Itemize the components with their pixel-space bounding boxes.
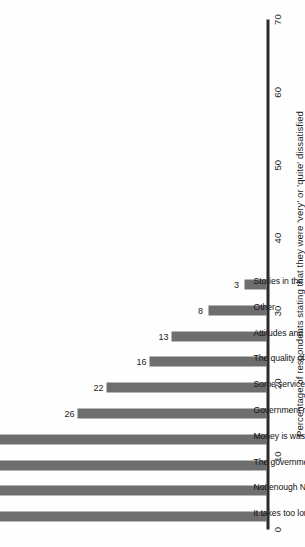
bar-group: 65It takes too long to get a GP or hospi…: [8, 503, 266, 529]
axis-tick-10: 10: [271, 451, 282, 462]
bar-value-label: 16: [136, 356, 146, 366]
bar-chart-plot: 65It takes too long to get a GP or hospi…: [0, 0, 305, 547]
bar-group: 22Some services or treatments are not av…: [8, 374, 266, 400]
bar: [106, 382, 266, 392]
bar-value-label: 13: [158, 331, 168, 341]
bar: [0, 485, 266, 495]
bar-group: 46Not enough NHS staff: [8, 477, 266, 503]
axis-tick-20: 20: [271, 378, 282, 389]
bar: [149, 356, 266, 366]
bar-group: 16The quality of NHS care: [8, 348, 266, 374]
value-axis-ticks: 010203040506070: [271, 0, 287, 547]
bar-value-label: 22: [93, 382, 103, 392]
bar-group: 26Government reforms that affect the NHS: [8, 400, 266, 426]
bar-value-label: 3: [234, 279, 239, 289]
bar-group: 8Other: [8, 297, 266, 323]
axis-title: Percentage of respondents stating that t…: [293, 0, 304, 547]
axis-tick-0: 0: [271, 526, 282, 531]
value-axis-line: [266, 19, 269, 529]
axis-tick-50: 50: [271, 159, 282, 170]
bar: [171, 331, 266, 341]
bar: [0, 460, 266, 470]
bar-group: 3Stories in the newspaper, on the radio …: [8, 271, 266, 297]
bar-value-label: 8: [197, 305, 202, 315]
bar: [77, 408, 266, 418]
bar-value-label: 26: [64, 408, 74, 418]
bar-group: 40The government doesn't spend enough mo…: [8, 452, 266, 478]
chart-canvas: 65It takes too long to get a GP or hospi…: [0, 0, 305, 547]
axis-tick-40: 40: [271, 232, 282, 243]
bar: [0, 511, 266, 521]
rotated-chart-container: 65It takes too long to get a GP or hospi…: [0, 0, 305, 547]
bar: [0, 434, 266, 444]
axis-tick-30: 30: [271, 305, 282, 316]
bars-group: 65It takes too long to get a GP or hospi…: [8, 19, 266, 529]
axis-tick-60: 60: [271, 86, 282, 97]
bar-group: 13Attitudes and behaviour of NHS staff: [8, 323, 266, 349]
axis-tick-70: 70: [271, 14, 282, 25]
bar-group: 39Money is wasted in the NHS: [8, 426, 266, 452]
